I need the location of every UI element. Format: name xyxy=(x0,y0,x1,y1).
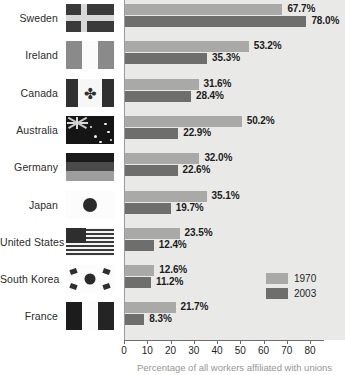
axis-tick xyxy=(171,340,172,344)
axis-tick-label: 0 xyxy=(112,345,136,357)
axis-tick xyxy=(124,340,125,344)
value-axis-ticks: 01020304050607080 xyxy=(0,340,345,360)
table-row: France21.7%8.3% xyxy=(0,298,345,335)
bar-1970[interactable] xyxy=(125,153,199,164)
table-row: Sweden67.7%78.0% xyxy=(0,0,345,37)
country-label: Ireland xyxy=(0,46,58,64)
flag-japan-icon xyxy=(66,191,114,219)
country-label: France xyxy=(0,307,58,325)
country-label: Sweden xyxy=(0,9,58,27)
bar-value-1970: 21.7% xyxy=(181,301,209,312)
axis-caption: Percentage of all workers affiliated wit… xyxy=(124,362,345,373)
bar-2003[interactable] xyxy=(125,314,144,325)
country-label: United States xyxy=(0,233,58,251)
bar-value-1970: 53.2% xyxy=(254,40,282,51)
bar-value-1970: 23.5% xyxy=(185,227,213,238)
flag-germany-icon xyxy=(66,153,114,181)
bar-value-2003: 8.3% xyxy=(149,313,171,324)
bar-1970[interactable] xyxy=(125,228,180,239)
bar-1970[interactable] xyxy=(125,116,242,127)
table-row: Australia50.2%22.9% xyxy=(0,112,345,149)
flag-australia-icon xyxy=(66,116,114,144)
flag-sweden-icon xyxy=(66,4,114,32)
legend-label-1970: 1970 xyxy=(294,272,316,285)
flag-canada-icon: ✤ xyxy=(66,79,114,107)
bar-2003[interactable] xyxy=(125,203,171,214)
legend-swatch-1970-icon xyxy=(266,273,288,284)
legend-swatch-2003-icon xyxy=(266,288,288,299)
bar-1970[interactable] xyxy=(125,41,249,52)
axis-tick-label: 20 xyxy=(159,345,183,357)
axis-tick xyxy=(240,340,241,344)
bar-value-1970: 32.0% xyxy=(204,152,232,163)
bar-1970[interactable] xyxy=(125,191,207,202)
axis-tick xyxy=(217,340,218,344)
table-row: Japan35.1%19.7% xyxy=(0,187,345,224)
axis-tick-label: 50 xyxy=(228,345,252,357)
bar-value-2003: 22.6% xyxy=(183,164,211,175)
axis-tick-label: 30 xyxy=(182,345,206,357)
country-label: Canada xyxy=(0,84,58,102)
country-label: Australia xyxy=(0,121,58,139)
bar-value-2003: 78.0% xyxy=(311,15,339,26)
flag-south-korea-icon xyxy=(66,265,114,293)
bar-2003[interactable] xyxy=(125,165,178,176)
country-label: Germany xyxy=(0,158,58,176)
axis-tick xyxy=(147,340,148,344)
axis-tick xyxy=(287,340,288,344)
bar-value-2003: 11.2% xyxy=(156,276,183,287)
bar-value-1970: 67.7% xyxy=(287,3,315,14)
bar-value-2003: 12.4% xyxy=(159,239,187,250)
table-row: Canada✤31.6%28.4% xyxy=(0,75,345,112)
flag-ireland-icon xyxy=(66,41,114,69)
legend-label-2003: 2003 xyxy=(294,287,316,300)
axis-tick-label: 60 xyxy=(252,345,276,357)
bar-2003[interactable] xyxy=(125,128,178,139)
bar-1970[interactable] xyxy=(125,265,154,276)
axis-tick xyxy=(264,340,265,344)
flag-france-icon xyxy=(66,302,114,330)
bar-value-1970: 31.6% xyxy=(204,78,232,89)
bar-2003[interactable] xyxy=(125,277,151,288)
country-label: Japan xyxy=(0,196,58,214)
axis-tick-label: 80 xyxy=(298,345,322,357)
bar-1970[interactable] xyxy=(125,4,282,15)
bar-value-1970: 12.6% xyxy=(159,264,187,275)
bar-1970[interactable] xyxy=(125,79,199,90)
bar-value-2003: 28.4% xyxy=(196,90,224,101)
bar-2003[interactable] xyxy=(125,53,207,64)
flag-united-states-icon xyxy=(66,228,114,256)
table-row: Germany32.0%22.6% xyxy=(0,149,345,186)
bar-value-2003: 22.9% xyxy=(183,127,211,138)
bar-2003[interactable] xyxy=(125,91,191,102)
bar-2003[interactable] xyxy=(125,240,154,251)
table-row: Ireland53.2%35.3% xyxy=(0,37,345,74)
bar-value-2003: 19.7% xyxy=(176,202,204,213)
table-row: United States23.5%12.4% xyxy=(0,224,345,261)
axis-tick xyxy=(310,340,311,344)
bar-2003[interactable] xyxy=(125,16,306,27)
bar-value-1970: 35.1% xyxy=(212,190,240,201)
axis-tick-label: 70 xyxy=(275,345,299,357)
axis-tick-label: 40 xyxy=(205,345,229,357)
bar-value-1970: 50.2% xyxy=(247,115,275,126)
bar-value-2003: 35.3% xyxy=(212,52,240,63)
axis-tick xyxy=(194,340,195,344)
country-label: South Korea xyxy=(0,270,58,288)
axis-tick-label: 10 xyxy=(135,345,159,357)
bar-1970[interactable] xyxy=(125,302,176,313)
